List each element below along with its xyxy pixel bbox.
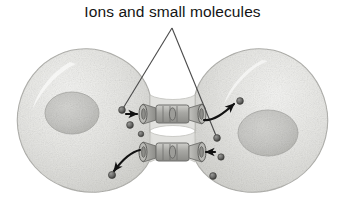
ion-right-lower	[210, 173, 217, 180]
right-nucleus	[238, 110, 298, 156]
figure-canvas	[0, 0, 345, 221]
ion-right-mid-b	[218, 154, 224, 160]
lower-gap-junction-channel	[139, 142, 206, 162]
upper-channel-right-pore	[200, 109, 204, 120]
lower-channel-center-pore	[169, 146, 175, 158]
ion-left-upper-b	[127, 122, 134, 129]
upper-channel-left-pore	[142, 109, 146, 120]
lower-channel-right-pore	[200, 147, 204, 158]
ion-left-mid	[138, 131, 144, 137]
gap-junction-figure: Ions and small molecules	[0, 0, 345, 221]
right-cell	[192, 49, 327, 193]
ion-right-mid-a	[214, 135, 221, 142]
figure-caption: Ions and small molecules	[0, 3, 345, 21]
ion-left-upper-a	[119, 107, 126, 114]
lower-channel-left-pore	[142, 147, 146, 158]
ion-left-lower	[108, 171, 115, 178]
upper-gap-junction-channel	[139, 104, 206, 124]
upper-channel-center-pore	[169, 108, 175, 120]
left-cell	[17, 49, 152, 193]
left-nucleus	[45, 92, 99, 134]
ion-right-upper	[237, 98, 244, 105]
